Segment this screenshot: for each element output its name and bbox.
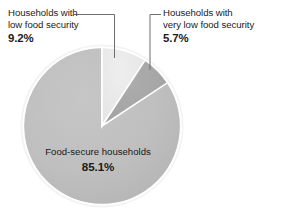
callout-very-low-line1: Households with [163,7,254,19]
callout-very-low-line2: very low food security [163,19,254,31]
callout-very-low-food-security: Households with very low food security 5… [163,7,254,46]
center-label-line1: Food-secure households [45,146,151,157]
center-label-food-secure: Food-secure households 85.1% [22,146,174,174]
callout-low-line2: low food security [8,19,79,31]
callout-low-food-security: Households with low food security 9.2% [8,7,79,46]
callout-low-percent: 9.2% [8,31,79,46]
callout-very-low-percent: 5.7% [163,31,254,46]
pie-chart-figure: Households with low food security 9.2% H… [0,0,285,223]
callout-low-line1: Households with [8,7,79,19]
center-label-percent: 85.1% [22,159,174,174]
